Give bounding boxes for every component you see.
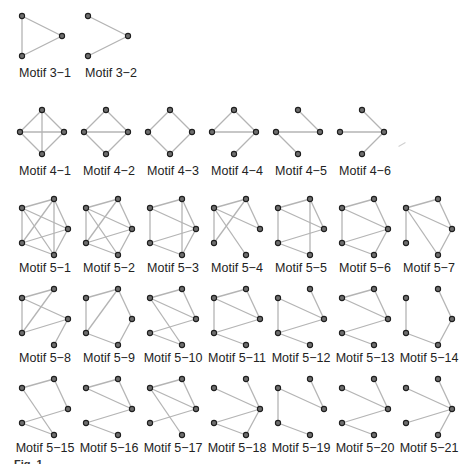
graph-edge: [342, 319, 388, 333]
graph-edge: [182, 289, 196, 319]
graph-edge: [342, 388, 388, 409]
graph-node: [257, 226, 262, 231]
graph-node: [179, 376, 184, 381]
graph-edge: [20, 132, 42, 154]
motif-cell: Motif 4−4: [204, 102, 270, 188]
graph-edge: [118, 289, 132, 319]
motif-label: Motif 3−2: [72, 66, 150, 80]
graph-node: [403, 420, 408, 425]
graph-edge: [310, 289, 324, 319]
graph-node: [115, 376, 120, 381]
motif-cell: Motif 4−2: [76, 102, 142, 188]
graph-edge: [150, 379, 182, 388]
graph-node: [243, 342, 248, 347]
motif-graph: [140, 283, 206, 345]
graph-edge: [342, 243, 374, 255]
graph-node: [115, 252, 120, 257]
graph-edge: [118, 319, 132, 345]
graph-edge: [406, 388, 452, 409]
graph-edge: [88, 16, 128, 36]
graph-node: [435, 342, 440, 347]
graph-node: [193, 406, 198, 411]
graph-node: [83, 330, 88, 335]
graph-node: [275, 295, 280, 300]
graph-edge: [438, 229, 452, 255]
graph-node: [211, 420, 216, 425]
graph-node: [339, 295, 344, 300]
graph-edge: [42, 132, 64, 154]
graph-node: [275, 240, 280, 245]
graph-edge: [278, 319, 324, 333]
graph-node: [243, 376, 248, 381]
graph-edge: [106, 132, 128, 154]
graph-edge: [278, 388, 324, 409]
graph-edge: [22, 379, 54, 388]
graph-node: [83, 420, 88, 425]
graph-node: [51, 252, 56, 257]
graph-edge: [182, 199, 196, 229]
graph-node: [39, 151, 44, 156]
graph-node: [307, 252, 312, 257]
graph-edge: [86, 409, 132, 423]
graph-node: [275, 330, 280, 335]
graph-edge: [374, 199, 388, 229]
motif-cell: Motif 5−9: [76, 283, 142, 369]
graph-node: [339, 205, 344, 210]
graph-edge: [148, 110, 170, 132]
graph-node: [307, 342, 312, 347]
motif-cell: Motif 4−5: [268, 102, 334, 188]
motif-graph: [76, 102, 142, 164]
graph-edge: [214, 388, 260, 409]
graph-edge: [374, 379, 388, 409]
graph-node: [51, 432, 56, 437]
graph-edge: [342, 423, 374, 435]
motif-graph: [396, 283, 462, 345]
graph-node: [339, 420, 344, 425]
graph-edge: [278, 423, 310, 435]
motif-label: Motif 4−6: [326, 164, 404, 178]
graph-node: [371, 376, 376, 381]
stray-mark: [398, 142, 405, 147]
graph-edge: [86, 423, 118, 435]
graph-node: [243, 286, 248, 291]
graph-node: [275, 420, 280, 425]
motif-graph: [140, 373, 206, 435]
graph-node: [257, 406, 262, 411]
graph-edge: [54, 199, 68, 229]
graph-node: [381, 129, 386, 134]
motif-cell: Motif 5−13: [332, 283, 398, 369]
motif-graph: [140, 193, 206, 255]
graph-edge: [118, 199, 132, 229]
graph-node: [179, 432, 184, 437]
graph-node: [19, 420, 24, 425]
graph-edge: [298, 110, 320, 132]
graph-node: [403, 205, 408, 210]
graph-edge: [310, 379, 324, 409]
graph-edge: [54, 379, 68, 409]
graph-node: [321, 406, 326, 411]
graph-node: [83, 295, 88, 300]
graph-edge: [278, 333, 310, 345]
graph-node: [403, 385, 408, 390]
motif-graph: [140, 102, 206, 164]
graph-node: [295, 151, 300, 156]
graph-node: [371, 286, 376, 291]
graph-edge: [118, 379, 132, 409]
graph-edge: [342, 409, 388, 423]
graph-node: [129, 226, 134, 231]
graph-node: [51, 196, 56, 201]
graph-node: [81, 129, 86, 134]
graph-node: [51, 376, 56, 381]
graph-node: [359, 151, 364, 156]
graph-node: [275, 205, 280, 210]
motif-cell: Motif 5−3: [140, 193, 206, 279]
graph-node: [209, 129, 214, 134]
graph-node: [435, 376, 440, 381]
motif-label: Motif 5−7: [390, 261, 466, 275]
graph-edge: [86, 289, 118, 333]
motif-graph: [12, 193, 78, 255]
motif-cell: Motif 5−11: [204, 283, 270, 369]
motif-cell: Motif 5−8: [12, 283, 78, 369]
graph-edge: [170, 110, 192, 132]
graph-node: [83, 205, 88, 210]
